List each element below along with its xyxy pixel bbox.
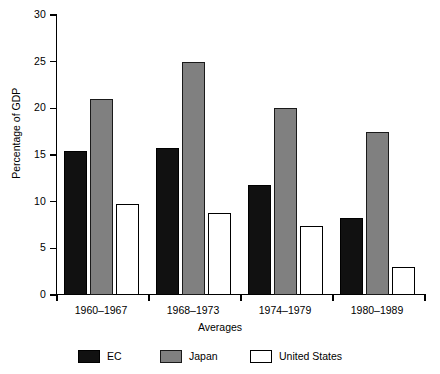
bar-japan-1974–1979 [274, 108, 297, 295]
x-axis-tick [424, 295, 425, 301]
x-axis-group-label: 1980–1989 [332, 305, 422, 316]
legend-swatch-icon [250, 350, 272, 363]
legend-label: Japan [189, 351, 218, 362]
y-axis-tick-label: 20 [34, 102, 46, 113]
legend-swatch-icon [160, 350, 182, 363]
x-axis-tick [56, 295, 57, 301]
bar-japan-1980–1989 [366, 132, 389, 295]
y-axis-title: Percentage of GDP [11, 73, 22, 193]
y-axis-tick [50, 108, 57, 109]
bar-united-states-1968–1973 [208, 213, 231, 295]
bar-ec-1968–1973 [156, 148, 179, 295]
bar-chart-figure: Percentage of GDP 051015202530 1960–1967… [0, 0, 440, 374]
x-axis-tick [240, 295, 241, 301]
bar-ec-1974–1979 [248, 185, 271, 295]
x-axis-group-label: 1974–1979 [240, 305, 330, 316]
x-axis-tick [148, 295, 149, 301]
bar-japan-1968–1973 [182, 62, 205, 295]
legend-swatch-icon [78, 350, 100, 363]
y-axis-tick-label: 15 [34, 149, 46, 160]
y-axis-tick-label: 0 [40, 289, 46, 300]
y-axis-tick-label: 30 [34, 9, 46, 20]
bar-united-states-1974–1979 [300, 226, 323, 295]
legend-item-ec: EC [78, 348, 122, 364]
plot-area [57, 15, 425, 295]
y-axis-tick [50, 14, 57, 15]
bar-united-states-1980–1989 [392, 267, 415, 295]
y-axis-tick [50, 201, 57, 202]
bar-ec-1960–1967 [64, 151, 87, 295]
chart-legend: ECJapanUnited States [0, 348, 440, 368]
legend-label: United States [279, 351, 342, 362]
legend-item-united-states: United States [250, 348, 342, 364]
y-axis-tick-label: 25 [34, 56, 46, 67]
x-axis-group-label: 1968–1973 [148, 305, 238, 316]
x-axis-tick [332, 295, 333, 301]
bar-united-states-1960–1967 [116, 204, 139, 295]
legend-label: EC [107, 351, 122, 362]
legend-item-japan: Japan [160, 348, 218, 364]
x-axis-title: Averages [0, 322, 440, 333]
bar-japan-1960–1967 [90, 99, 113, 295]
y-axis-tick-label: 5 [40, 242, 46, 253]
y-axis-tick [50, 154, 57, 155]
y-axis-tick [50, 61, 57, 62]
x-axis-group-label: 1960–1967 [56, 305, 146, 316]
bar-ec-1980–1989 [340, 218, 363, 295]
y-axis-tick-label: 10 [34, 196, 46, 207]
y-axis-tick [50, 248, 57, 249]
